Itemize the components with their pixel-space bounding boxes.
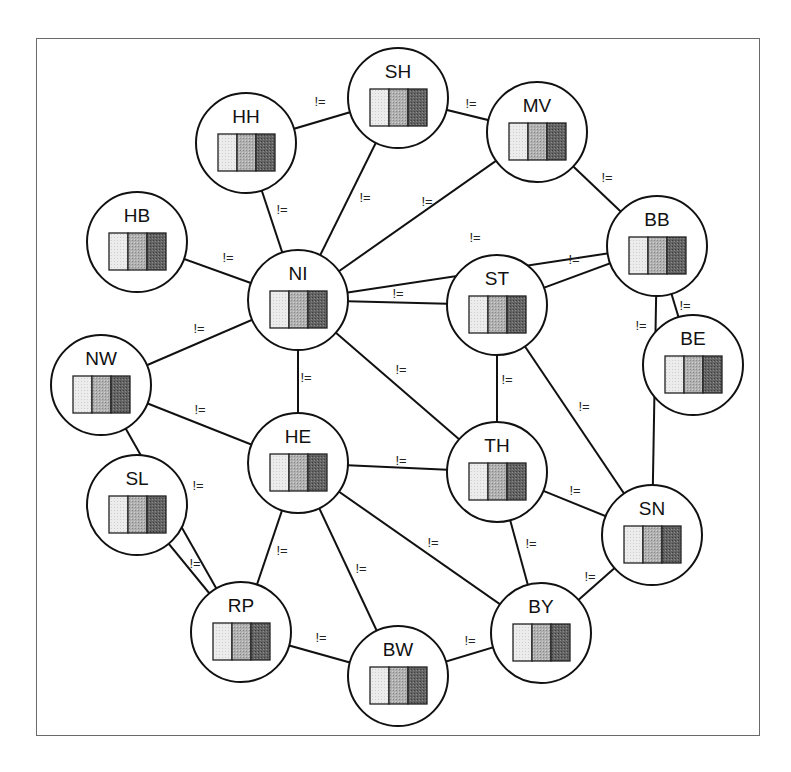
node-label: ST bbox=[485, 268, 510, 289]
edge-label-not-equal: != bbox=[421, 194, 432, 209]
domain-swatch-3 bbox=[408, 89, 427, 126]
domain-swatch-1 bbox=[213, 623, 232, 660]
edge-label-not-equal: != bbox=[465, 96, 476, 111]
domain-swatch-1 bbox=[469, 463, 488, 500]
edge-label-not-equal: != bbox=[189, 556, 200, 571]
node-hb: HB bbox=[87, 192, 187, 292]
edge-label-not-equal: != bbox=[395, 453, 406, 468]
node-label: SN bbox=[639, 498, 665, 519]
domain-swatch-2 bbox=[528, 123, 547, 160]
nodes-layer: SHHHMVHBBBNISTBENWHETHSNSLRPBYBW bbox=[51, 48, 743, 726]
domain-swatch-3 bbox=[251, 623, 270, 660]
domain-swatch-2 bbox=[289, 454, 308, 491]
domain-swatch-2 bbox=[289, 291, 308, 328]
domain-swatch-1 bbox=[73, 376, 92, 413]
node-bb: BB bbox=[607, 196, 707, 296]
node-label: NI bbox=[289, 263, 308, 284]
domain-swatch-3 bbox=[408, 667, 427, 704]
node-bw: BW bbox=[348, 626, 448, 726]
edge-label-not-equal: != bbox=[635, 318, 646, 333]
domain-swatch-3 bbox=[507, 463, 526, 500]
domain-swatch-3 bbox=[147, 233, 166, 270]
edge-label-not-equal: != bbox=[314, 94, 325, 109]
node-by: BY bbox=[491, 583, 591, 683]
edge-label-not-equal: != bbox=[355, 561, 366, 576]
node-label: HB bbox=[124, 205, 150, 226]
node-sh: SH bbox=[348, 48, 448, 148]
node-nw: NW bbox=[51, 335, 151, 435]
domain-swatch-1 bbox=[624, 526, 643, 563]
edge-label-not-equal: != bbox=[276, 543, 287, 558]
node-label: SH bbox=[385, 61, 411, 82]
edge-label-not-equal: != bbox=[395, 362, 406, 377]
edge-label-not-equal: != bbox=[276, 202, 287, 217]
edge-label-not-equal: != bbox=[192, 478, 203, 493]
domain-swatch-1 bbox=[469, 296, 488, 333]
domain-swatch-2 bbox=[128, 496, 147, 533]
node-hh: HH bbox=[196, 93, 296, 193]
node-label: TH bbox=[484, 435, 509, 456]
domain-swatch-1 bbox=[270, 454, 289, 491]
domain-swatch-1 bbox=[370, 89, 389, 126]
domain-swatch-3 bbox=[507, 296, 526, 333]
domain-swatch-2 bbox=[389, 89, 408, 126]
edge-label-not-equal: != bbox=[464, 633, 475, 648]
domain-swatch-1 bbox=[665, 356, 684, 393]
domain-swatch-2 bbox=[237, 134, 256, 171]
edge-label-not-equal: != bbox=[359, 190, 370, 205]
domain-swatch-2 bbox=[532, 624, 551, 661]
edge-label-not-equal: != bbox=[601, 170, 612, 185]
edge-label-not-equal: != bbox=[193, 321, 204, 336]
node-label: SL bbox=[125, 468, 148, 489]
domain-swatch-3 bbox=[551, 624, 570, 661]
node-label: NW bbox=[85, 348, 117, 369]
domain-swatch-2 bbox=[488, 463, 507, 500]
domain-swatch-1 bbox=[370, 667, 389, 704]
domain-swatch-3 bbox=[111, 376, 130, 413]
node-label: BE bbox=[680, 328, 705, 349]
domain-swatch-1 bbox=[109, 233, 128, 270]
edge-label-not-equal: != bbox=[584, 569, 595, 584]
edge-label-not-equal: != bbox=[569, 483, 580, 498]
edge-label-not-equal: != bbox=[501, 372, 512, 387]
edge-label-not-equal: != bbox=[469, 230, 480, 245]
node-label: HH bbox=[232, 106, 259, 127]
domain-swatch-1 bbox=[513, 624, 532, 661]
edge-label-not-equal: != bbox=[525, 536, 536, 551]
domain-swatch-1 bbox=[629, 237, 648, 274]
node-label: MV bbox=[523, 95, 552, 116]
domain-swatch-3 bbox=[308, 291, 327, 328]
node-be: BE bbox=[643, 315, 743, 415]
node-label: RP bbox=[228, 595, 254, 616]
domain-swatch-3 bbox=[662, 526, 681, 563]
domain-swatch-3 bbox=[547, 123, 566, 160]
node-label: BW bbox=[383, 639, 414, 660]
domain-swatch-1 bbox=[109, 496, 128, 533]
node-sl: SL bbox=[87, 455, 187, 555]
constraint-graph: !=!=!=!=!=!=!=!=!=!=!=!=!=!=!=!=!=!=!=!=… bbox=[0, 0, 791, 772]
domain-swatch-3 bbox=[256, 134, 275, 171]
domain-swatch-2 bbox=[643, 526, 662, 563]
node-label: BB bbox=[644, 209, 669, 230]
edge-label-not-equal: != bbox=[392, 286, 403, 301]
domain-swatch-2 bbox=[232, 623, 251, 660]
domain-swatch-3 bbox=[703, 356, 722, 393]
domain-swatch-2 bbox=[488, 296, 507, 333]
node-label: HE bbox=[285, 426, 311, 447]
node-mv: MV bbox=[487, 82, 587, 182]
domain-swatch-2 bbox=[128, 233, 147, 270]
edge-label-not-equal: != bbox=[300, 370, 311, 385]
domain-swatch-2 bbox=[389, 667, 408, 704]
edge-label-not-equal: != bbox=[427, 535, 438, 550]
edge-label-not-equal: != bbox=[315, 630, 326, 645]
domain-swatch-3 bbox=[667, 237, 686, 274]
domain-swatch-3 bbox=[147, 496, 166, 533]
domain-swatch-1 bbox=[509, 123, 528, 160]
edge-label-not-equal: != bbox=[568, 252, 579, 267]
node-th: TH bbox=[447, 422, 547, 522]
node-he: HE bbox=[248, 413, 348, 513]
edge-label-not-equal: != bbox=[194, 402, 205, 417]
edge-label-not-equal: != bbox=[222, 250, 233, 265]
domain-swatch-1 bbox=[218, 134, 237, 171]
edge-label-not-equal: != bbox=[578, 399, 589, 414]
